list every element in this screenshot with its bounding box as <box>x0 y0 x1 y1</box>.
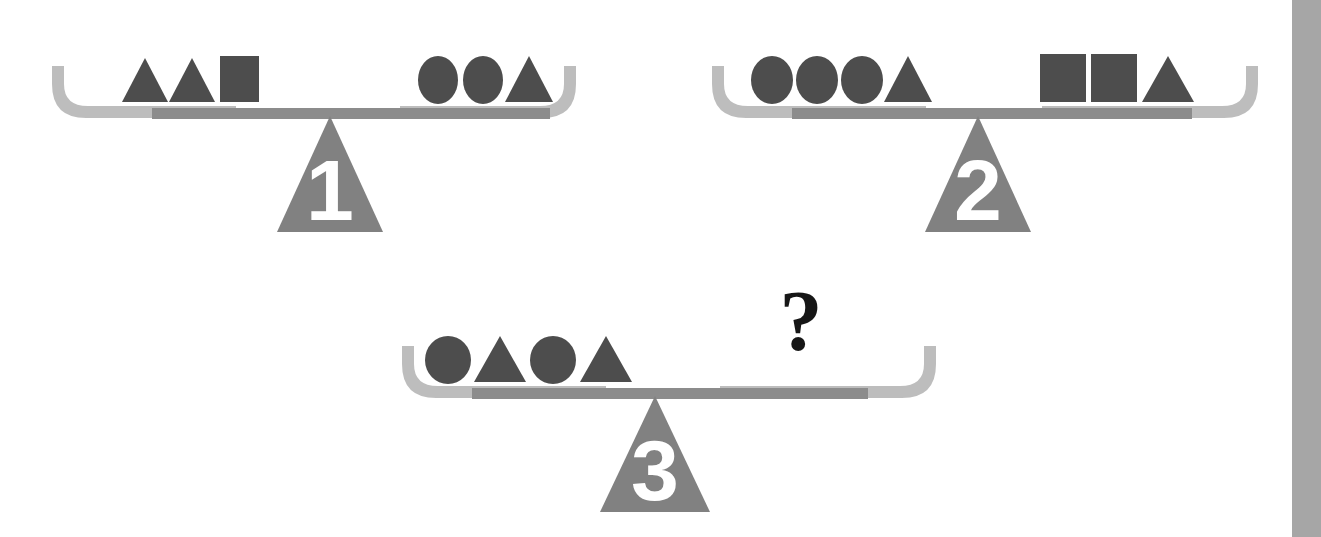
shape-triangle <box>1142 56 1194 102</box>
scale-1-beam <box>152 108 550 119</box>
scale-2-right-pan-items <box>1040 54 1194 102</box>
scale-3-beam <box>472 388 868 399</box>
scale-2-beam <box>792 108 1192 119</box>
shape-circle <box>463 56 503 104</box>
scale-2: 2 <box>700 40 1270 250</box>
shape-triangle <box>122 58 168 102</box>
scale-1-right-pan-items <box>418 56 553 104</box>
scale-2-left-pan-items <box>751 56 932 104</box>
scale-3-number: 3 <box>631 422 679 518</box>
shape-square <box>220 56 259 102</box>
scale-3-left-pan-items <box>425 336 632 384</box>
shape-triangle <box>580 336 632 382</box>
unknown-question-mark: ? <box>780 273 823 369</box>
shape-square <box>1091 54 1137 102</box>
scale-1-left-pan-items <box>122 56 259 102</box>
scale-2-number: 2 <box>954 142 1002 238</box>
shape-circle <box>751 56 793 104</box>
scale-3: ? 3 <box>390 270 960 530</box>
shape-triangle <box>505 56 553 102</box>
page-edge-band <box>1292 0 1321 537</box>
shape-circle <box>841 56 883 104</box>
scale-1-number: 1 <box>306 142 354 238</box>
shape-circle <box>796 56 838 104</box>
shape-circle <box>425 336 471 384</box>
shape-circle <box>418 56 458 104</box>
shape-triangle <box>474 336 526 382</box>
shape-circle <box>530 336 576 384</box>
balance-puzzle-canvas: 1 2 <box>0 0 1321 537</box>
shape-triangle <box>884 56 932 102</box>
scale-1: 1 <box>40 40 600 250</box>
shape-triangle <box>169 58 215 102</box>
shape-square <box>1040 54 1086 102</box>
